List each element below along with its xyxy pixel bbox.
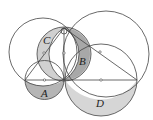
- label-d: D: [96, 98, 104, 109]
- center-point: [63, 52, 65, 54]
- figure-svg: [0, 0, 153, 120]
- center-point: [43, 79, 45, 81]
- label-a: A: [41, 88, 48, 99]
- center-point: [100, 79, 102, 81]
- center-point: [43, 52, 45, 54]
- geometry-diagram: A B C D: [0, 0, 153, 120]
- center-point: [99, 51, 101, 53]
- label-b: B: [79, 56, 86, 67]
- label-c: C: [43, 35, 50, 46]
